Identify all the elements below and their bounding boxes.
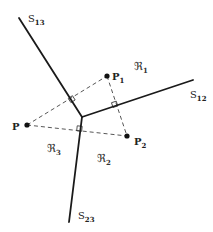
label-p1: P1 <box>112 71 125 85</box>
label-region-2: ℜ2 <box>97 152 111 167</box>
label-s13: S13 <box>28 13 45 27</box>
voronoi-diagram: P P1 P2 S13 S12 S23 ℜ1 ℜ2 ℜ3 <box>0 0 213 232</box>
label-region-3: ℜ3 <box>47 142 61 157</box>
edge-s13 <box>19 18 82 117</box>
label-s23: S23 <box>78 210 95 224</box>
edge-s23 <box>69 117 82 222</box>
label-s12: S12 <box>190 89 207 103</box>
point-p2 <box>124 133 129 138</box>
bisector-edges <box>19 18 193 222</box>
point-p <box>24 122 29 127</box>
diagram-svg: P P1 P2 S13 S12 S23 ℜ1 ℜ2 ℜ3 <box>0 0 213 232</box>
point-p1 <box>104 73 109 78</box>
label-region-1: ℜ1 <box>134 60 148 75</box>
edge-s12 <box>82 80 193 117</box>
label-p2: P2 <box>134 136 147 150</box>
segment-p-p1 <box>27 76 107 125</box>
label-p: P <box>12 121 20 132</box>
